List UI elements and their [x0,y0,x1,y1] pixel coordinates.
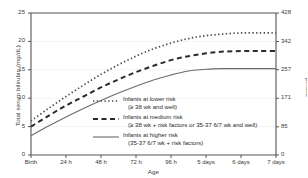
legend-label-higher-risk-sub: (35-37 6/7 wk + risk factors) [123,139,203,147]
x-axis-tick-label: 7 days [256,159,296,165]
y-axis-left-tick-label: 25 [3,9,25,15]
y-axis-right-title: μmol/L [305,28,308,148]
y-axis-right-tick-label: 257 [281,66,305,72]
legend-label-lower-risk: Infants at lower risk (≥ 38 wk and well) [123,95,177,111]
y-axis-right-tick-label: 85 [281,123,305,129]
x-axis-tick-label: 6 days [221,159,261,165]
y-axis-left-tick-label: 10 [3,94,25,100]
legend-label-medium-risk-sub: (≥ 38 wk + risk factors or 35-37 6/7 wk … [123,121,257,129]
legend-sample-solid-icon [93,135,119,139]
y-axis-left-tick-label: 5 [3,123,25,129]
chart-legend: Infants at lower risk (≥ 38 wk and well)… [93,96,278,148]
legend-label-lower-risk-main: Infants at lower risk [123,95,176,102]
x-axis-tick-label: 48 h [81,159,121,165]
legend-label-higher-risk-main: Infants at higher risk [123,131,178,138]
x-axis-tick-label: Birth [11,159,51,165]
legend-sample-dotted-icon [93,99,119,103]
legend-label-lower-risk-sub: (≥ 38 wk and well) [123,103,177,111]
x-axis-tick-label: 96 h [151,159,191,165]
phototherapy-nomogram-figure: Total serum bilirubin (mg/dL) μmol/L Age… [0,0,307,178]
legend-sample-dashed-icon [93,117,119,121]
x-axis-tick-label: 5 days [186,159,226,165]
legend-item-higher-risk: Infants at higher risk (35-37 6/7 wk + r… [93,132,278,148]
y-axis-left-tick-label: 0 [3,151,25,157]
legend-label-medium-risk: Infants at medium risk (≥ 38 wk + risk f… [123,113,257,129]
legend-label-higher-risk: Infants at higher risk (35-37 6/7 wk + r… [123,131,203,147]
chart-plot-area [0,0,307,178]
y-axis-left-tick-label: 15 [3,66,25,72]
x-axis-title: Age [0,168,307,175]
y-axis-right-tick-label: 428 [281,9,305,15]
y-axis-right-tick-label: 342 [281,38,305,44]
y-axis-left-tick-label: 20 [3,37,25,43]
y-axis-right-tick-label: 0 [281,151,305,157]
x-axis-tick-label: 24 h [46,159,86,165]
legend-label-medium-risk-main: Infants at medium risk [123,113,183,120]
y-axis-right-tick-label: 171 [281,94,305,100]
x-axis-tick-label: 72 h [116,159,156,165]
legend-item-lower-risk: Infants at lower risk (≥ 38 wk and well) [93,96,278,112]
legend-item-medium-risk: Infants at medium risk (≥ 38 wk + risk f… [93,114,278,130]
